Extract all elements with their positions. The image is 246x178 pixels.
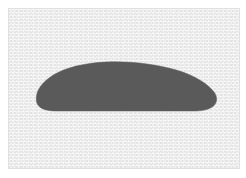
shape-viewer: Airfoil Shape Viewer <box>0 0 246 178</box>
canvas-frame <box>8 8 240 169</box>
canvas-dither-texture <box>8 8 240 169</box>
shape-canvas[interactable] <box>8 8 240 169</box>
viewer-title: Airfoil Shape Viewer <box>0 0 1 1</box>
